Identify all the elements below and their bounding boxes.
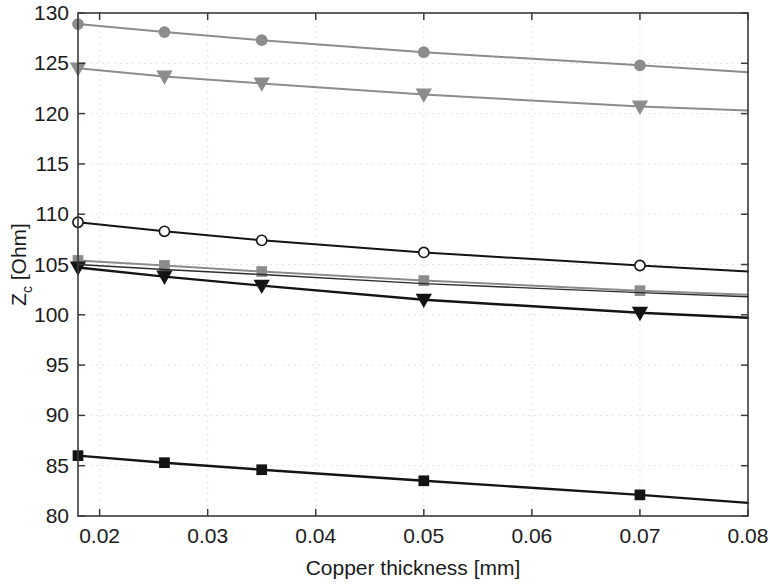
y-axis-title-subscript: c (19, 286, 35, 293)
data-point-marker (419, 476, 428, 485)
x-tick-label: 0.03 (187, 524, 228, 547)
y-tick-label: 100 (34, 303, 69, 326)
y-tick-label: 110 (36, 202, 69, 225)
y-tick-label: 85 (46, 454, 69, 477)
data-point-marker (635, 60, 645, 70)
y-tick-label: 105 (34, 253, 69, 276)
data-point-marker (159, 27, 169, 37)
data-point-marker (257, 235, 267, 245)
x-tick-label: 0.02 (79, 524, 120, 547)
y-tick-label: 80 (46, 504, 69, 527)
y-tick-label: 130 (34, 1, 69, 24)
y-tick-label: 90 (46, 403, 69, 426)
y-axis-title-base: Z (7, 293, 30, 306)
x-tick-label: 0.08 (728, 524, 769, 547)
y-axis-title-unit: [Ohm] (7, 223, 30, 286)
data-point-marker (257, 35, 267, 45)
y-tick-label: 120 (34, 102, 69, 125)
data-point-marker (419, 47, 429, 57)
x-tick-label: 0.05 (403, 524, 444, 547)
data-point-marker (635, 490, 644, 499)
chart-figure: 0.020.030.040.050.060.070.08 80859095100… (0, 0, 770, 585)
y-tick-label: 125 (34, 51, 69, 74)
data-point-marker (419, 247, 429, 257)
y-tick-label: 115 (36, 152, 69, 175)
data-point-marker (257, 465, 266, 474)
data-point-marker (159, 226, 169, 236)
data-point-marker (635, 286, 644, 295)
data-point-marker (160, 458, 169, 467)
x-tick-label: 0.04 (295, 524, 336, 547)
x-tick-label: 0.06 (511, 524, 552, 547)
chart-background (0, 0, 770, 585)
x-axis-title: Copper thickness [mm] (306, 556, 521, 579)
data-point-marker (635, 260, 645, 270)
chart-canvas: 0.020.030.040.050.060.070.08 80859095100… (0, 0, 770, 585)
y-tick-label: 95 (46, 353, 69, 376)
x-tick-label: 0.07 (619, 524, 660, 547)
